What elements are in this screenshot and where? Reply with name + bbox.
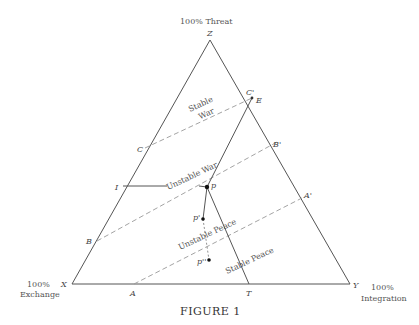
region-stable-war: Stable War [187, 95, 219, 124]
label-b-prime: B' [272, 140, 281, 149]
point-p-prime [201, 217, 205, 221]
label-p-double-prime: p'' [197, 257, 207, 266]
figure-caption: FIGURE 1 [180, 305, 241, 318]
label-a: A [129, 289, 136, 298]
point-p-double-prime [207, 258, 211, 262]
label-c-prime: C' [246, 88, 254, 97]
label-p: p [211, 181, 216, 190]
region-stable-peace: Stable Peace [224, 245, 275, 275]
label-exchange-pct: 100% [27, 280, 50, 289]
triangle-diagram: 100% Threat Z X 100% Exchange Y 100% Int… [0, 0, 419, 325]
label-integration: Integration [361, 294, 407, 303]
label-exchange: Exchange [20, 290, 60, 299]
point-e [251, 97, 254, 100]
vertex-z: Z [206, 29, 213, 38]
label-p-prime: p' [193, 213, 200, 222]
dashed-line-a-aprime [134, 198, 302, 284]
label-e: E [255, 96, 262, 105]
label-threat: 100% Threat [180, 17, 233, 26]
label-integration-pct: 100% [371, 283, 394, 292]
label-b: B [85, 237, 92, 246]
label-c: C [137, 145, 143, 154]
label-t: T [246, 289, 252, 298]
vertex-y: Y [353, 281, 359, 290]
line-p-pprime [203, 187, 207, 219]
label-a-prime: A' [303, 191, 312, 200]
point-p [205, 185, 209, 189]
vertex-x: X [60, 280, 67, 289]
label-i: I [114, 183, 119, 192]
